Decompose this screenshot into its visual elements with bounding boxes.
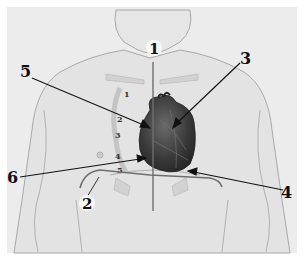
rib-label-3: 3: [115, 130, 121, 140]
chest-diagram: 1 2 3 4 5 1 2 3 4 5 6: [0, 0, 304, 259]
rib-label-5: 5: [117, 165, 123, 175]
callout-label-2: 2: [82, 195, 92, 213]
callout-label-4: 4: [281, 183, 292, 202]
rib-label-1: 1: [124, 89, 130, 99]
rib-label-4: 4: [115, 151, 121, 161]
callout-label-5: 5: [20, 62, 31, 81]
callout-label-6: 6: [7, 168, 18, 187]
callout-label-1: 1: [149, 40, 159, 58]
callout-label-3: 3: [240, 49, 251, 68]
